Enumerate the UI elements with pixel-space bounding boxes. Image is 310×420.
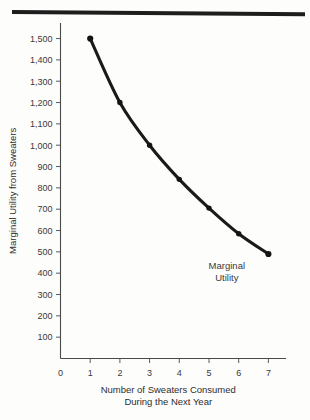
data-point-markers: [87, 35, 271, 257]
marginal-utility-label-line1: Marginal: [209, 260, 245, 271]
y-tick-label: 300: [37, 290, 52, 300]
y-axis-ticks: 1002003004005006007008009001,0001,1001,2…: [30, 34, 61, 343]
x-tick-label: 3: [147, 368, 152, 378]
x-tick-label: 5: [206, 368, 211, 378]
x-axis-ticks: 01234567: [58, 359, 271, 378]
marginal-utility-label-line2: Utility: [215, 272, 238, 283]
x-axis-title-line1: Number of Sweaters Consumed: [101, 384, 236, 395]
y-tick-label: 100: [37, 332, 52, 342]
y-tick-label: 400: [37, 268, 52, 278]
y-tick-label: 1,000: [30, 141, 53, 151]
data-point-marker: [265, 251, 271, 257]
y-tick-label: 900: [37, 162, 52, 172]
y-tick-label: 700: [37, 204, 52, 214]
data-point-marker: [87, 35, 93, 41]
y-tick-label: 1,100: [30, 119, 53, 129]
y-tick-label: 200: [37, 311, 52, 321]
x-tick-label: 2: [117, 368, 122, 378]
x-tick-label: 0: [58, 368, 63, 378]
data-point-marker: [177, 177, 182, 182]
data-point-marker: [236, 231, 241, 236]
y-tick-label: 1,300: [30, 77, 53, 87]
y-axis-title: Marginal Utility from Sweaters: [7, 127, 18, 253]
y-tick-label: 1,400: [30, 55, 53, 65]
marginal-utility-curve: [90, 39, 268, 254]
x-axis-title-line2: During the Next Year: [124, 396, 212, 407]
x-tick-label: 4: [177, 368, 182, 378]
x-tick-label: 7: [266, 368, 271, 378]
x-tick-label: 6: [236, 368, 241, 378]
marginal-utility-chart: 1002003004005006007008009001,0001,1001,2…: [0, 0, 310, 420]
data-point-marker: [117, 100, 122, 105]
chart-page: 1002003004005006007008009001,0001,1001,2…: [0, 0, 310, 420]
data-point-marker: [206, 205, 211, 210]
y-tick-label: 1,500: [30, 34, 53, 44]
y-tick-label: 1,200: [30, 98, 53, 108]
y-tick-label: 500: [37, 247, 52, 257]
y-tick-label: 600: [37, 226, 52, 236]
data-point-marker: [147, 143, 152, 148]
y-tick-label: 800: [37, 183, 52, 193]
x-tick-label: 1: [88, 368, 93, 378]
